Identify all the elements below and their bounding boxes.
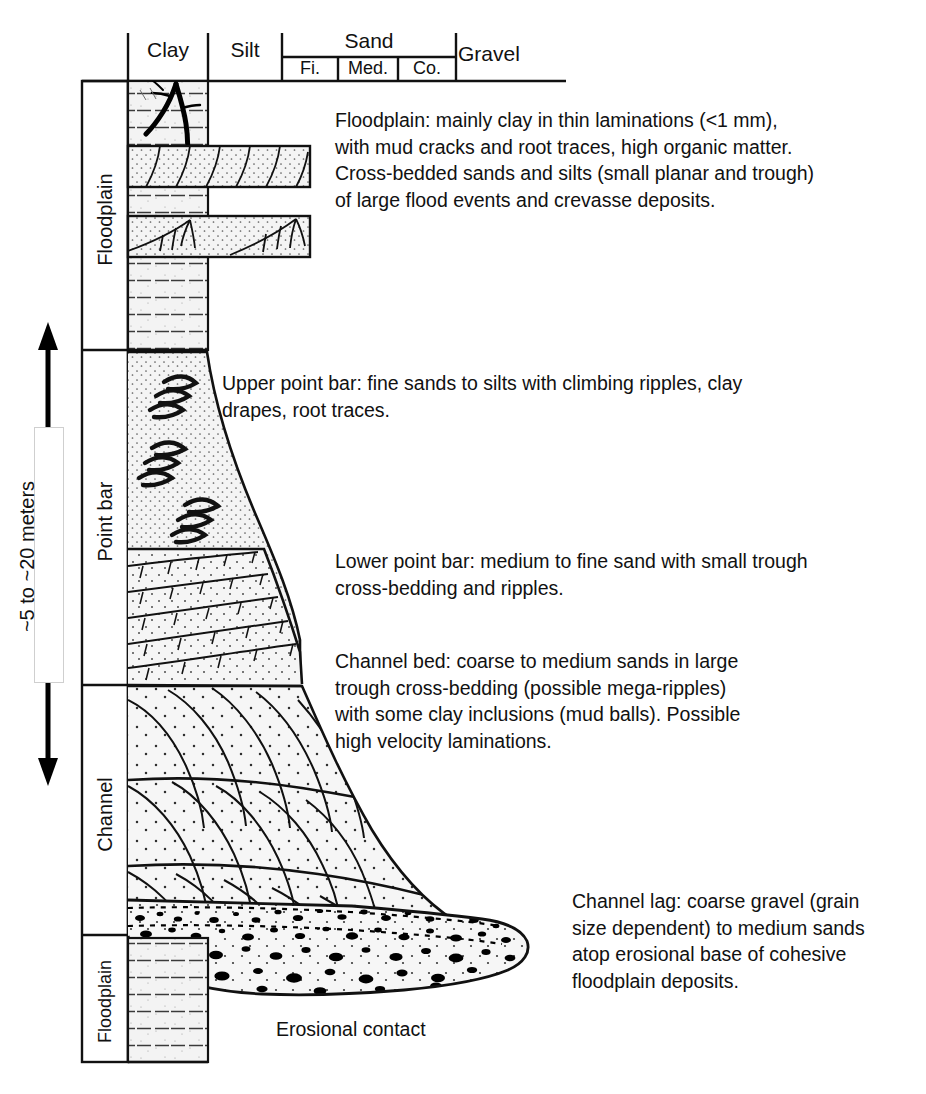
scale-label: ~5 to ~20 meters xyxy=(16,467,39,647)
unit-floodplain-lower xyxy=(128,938,208,1062)
facies-label-floodplain-upper: Floodplain xyxy=(94,105,117,335)
header-sand-medium-label: Med. xyxy=(338,58,398,79)
figure-root: Clay Silt Sand Fi. Med. Co. Gravel Flood… xyxy=(0,0,926,1094)
header-gravel-label: Gravel xyxy=(458,42,566,66)
facies-label-floodplain-lower: Floodplain xyxy=(95,887,116,1094)
scale-label-box xyxy=(34,427,64,683)
crevasse-sand-bed-lower xyxy=(128,216,310,257)
facies-label-point-bar: Point bar xyxy=(94,407,117,637)
annotation-floodplain: Floodplain: mainly clay in thin laminati… xyxy=(335,107,915,213)
annotation-channel-lag: Channel lag: coarse gravel (grain size d… xyxy=(572,888,922,994)
erosional-contact-label: Erosional contact xyxy=(276,1018,426,1041)
header-sand-fine-label: Fi. xyxy=(282,58,338,79)
annotation-lower-point-bar: Lower point bar: medium to fine sand wit… xyxy=(335,548,915,601)
annotation-channel-bed: Channel bed: coarse to medium sands in l… xyxy=(335,648,915,754)
annotation-upper-point-bar: Upper point bar: fine sands to silts wit… xyxy=(222,370,912,423)
header-sand-coarse-label: Co. xyxy=(398,58,456,79)
header-clay-label: Clay xyxy=(128,38,208,62)
header-sand-label: Sand xyxy=(282,29,456,53)
crevasse-sand-bed-upper xyxy=(128,146,310,187)
header-silt-label: Silt xyxy=(208,38,282,62)
